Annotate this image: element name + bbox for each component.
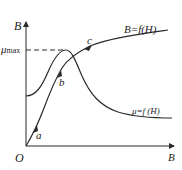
y-axis-label: B: [14, 20, 21, 32]
mu-max-label: μmax: [1, 44, 20, 55]
b-curve-label: B=f(H): [124, 24, 156, 35]
point-a-label: a: [36, 130, 42, 141]
point-b-label: b: [59, 77, 65, 88]
origin-label: O: [15, 152, 24, 164]
point-c-label: c: [87, 35, 92, 46]
mu-curve-label: μ=f (H): [132, 107, 160, 116]
b-curve: [26, 30, 168, 146]
mu-max-subscript: max: [7, 46, 21, 55]
magnetization-diagram: B μmax B=f(H) μ=f (H) a b c O B: [0, 0, 182, 170]
x-axis-label: B: [168, 152, 175, 163]
